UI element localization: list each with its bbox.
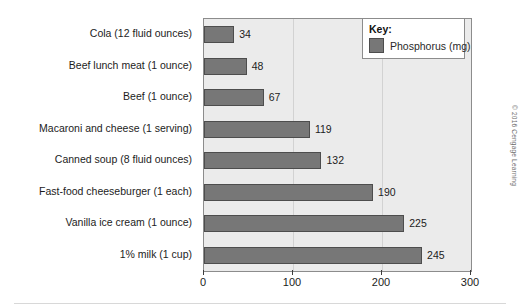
category-label-1: Cola (12 fluid ounces) [0,27,192,39]
x-axis-ticks [203,270,472,276]
category-axis-labels: Cola (12 fluid ounces)Beef lunch meat (1… [0,18,198,270]
bar-5 [204,152,321,169]
tick-0 [203,270,204,275]
bar-4 [204,121,310,138]
bottom-divider [14,303,506,304]
bar-7 [204,215,404,232]
category-label-8: 1% milk (1 cup) [0,248,192,260]
category-label-7: Vanilla ice cream (1 ounce) [0,216,192,228]
bar-value-label-3: 67 [269,89,281,106]
bar-value-label-6: 190 [378,184,396,201]
tick-300 [470,270,471,275]
bar-6 [204,184,373,201]
bar-value-label-2: 48 [252,58,264,75]
bar-value-label-1: 34 [239,26,251,43]
bar-value-label-5: 132 [326,152,344,169]
tick-label-0: 0 [200,276,206,288]
tick-100 [292,270,293,275]
chart-legend: Key: Phosphorus (mg) [362,18,465,59]
category-label-5: Canned soup (8 fluid ounces) [0,153,192,165]
legend-entry-phosphorus: Phosphorus (mg) [369,38,458,53]
bar-value-label-7: 225 [409,215,427,232]
copyright-credit: © 2016 Cengage Learning [511,105,518,186]
legend-title: Key: [369,23,458,35]
bar-value-label-8: 245 [427,247,445,264]
tick-label-100: 100 [283,276,301,288]
legend-color-swatch-icon [369,38,384,53]
category-label-2: Beef lunch meat (1 ounce) [0,59,192,71]
bar-8 [204,247,422,264]
bar-1 [204,26,234,43]
tick-label-300: 300 [461,276,479,288]
tick-label-200: 200 [372,276,390,288]
bar-3 [204,89,264,106]
category-label-3: Beef (1 ounce) [0,90,192,102]
gridline-100 [293,19,294,271]
bar-2 [204,58,247,75]
bar-value-label-4: 119 [315,121,332,138]
category-label-4: Macaroni and cheese (1 serving) [0,122,192,134]
tick-200 [381,270,382,275]
legend-entry-label: Phosphorus (mg) [390,40,471,52]
phosphorus-bar-chart-figure: Cola (12 fluid ounces)Beef lunch meat (1… [0,0,520,307]
category-label-6: Fast-food cheeseburger (1 each) [0,185,192,197]
